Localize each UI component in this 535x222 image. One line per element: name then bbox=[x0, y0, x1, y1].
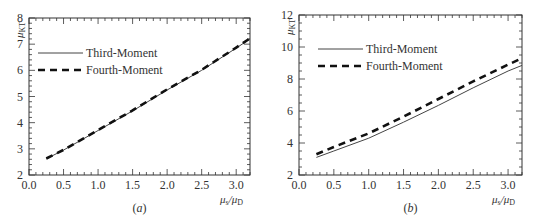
y-tick-label: 8 bbox=[287, 72, 293, 86]
y-tick-label: 2 bbox=[17, 168, 23, 182]
y-tick-label: 10 bbox=[281, 40, 293, 54]
figure: 0.00.51.01.52.02.53.02345678μKTμs/μD(a)T… bbox=[0, 0, 535, 222]
x-tick-label: 1.5 bbox=[125, 178, 140, 192]
y-tick-label: 6 bbox=[17, 63, 23, 77]
x-tick-label: 3.0 bbox=[229, 178, 244, 192]
x-tick-label: 2.0 bbox=[160, 178, 175, 192]
x-axis-label: μs/μD bbox=[219, 193, 243, 207]
x-tick-label: 2.0 bbox=[431, 178, 446, 192]
series-line-third-moment bbox=[316, 65, 522, 157]
legend-label: Third-Moment bbox=[86, 46, 158, 60]
x-tick-label: 2.5 bbox=[194, 178, 209, 192]
y-tick-label: 4 bbox=[17, 116, 23, 130]
panel-label: (a) bbox=[133, 201, 147, 215]
x-tick-label: 0.5 bbox=[326, 178, 341, 192]
legend-label: Third-Moment bbox=[366, 42, 438, 56]
chart-panel-b: 0.00.51.01.52.02.53.024681012μKTμs/μD(b)… bbox=[281, 8, 522, 215]
chart-panel-a: 0.00.51.01.52.02.53.02345678μKTμs/μD(a)T… bbox=[13, 11, 250, 215]
x-tick-label: 0.0 bbox=[292, 178, 307, 192]
y-tick-label: 6 bbox=[287, 104, 293, 118]
legend-label: Fourth-Moment bbox=[366, 59, 443, 73]
panel-label: (b) bbox=[404, 201, 418, 215]
legend-label: Fourth-Moment bbox=[86, 63, 163, 77]
x-tick-label: 2.5 bbox=[466, 178, 481, 192]
x-tick-label: 1.5 bbox=[396, 178, 411, 192]
y-tick-label: 2 bbox=[287, 168, 293, 182]
y-tick-label: 5 bbox=[17, 90, 23, 104]
y-tick-label: 4 bbox=[287, 136, 293, 150]
y-tick-label: 3 bbox=[17, 142, 23, 156]
x-axis-label: μs/μD bbox=[491, 193, 515, 207]
x-tick-label: 1.0 bbox=[361, 178, 376, 192]
x-tick-label: 0.5 bbox=[56, 178, 71, 192]
x-tick-label: 1.0 bbox=[91, 178, 106, 192]
x-tick-label: 0.0 bbox=[22, 178, 37, 192]
x-tick-label: 3.0 bbox=[501, 178, 516, 192]
y-tick-label: 7 bbox=[17, 37, 23, 51]
y-axis-label: μKT bbox=[13, 22, 27, 39]
